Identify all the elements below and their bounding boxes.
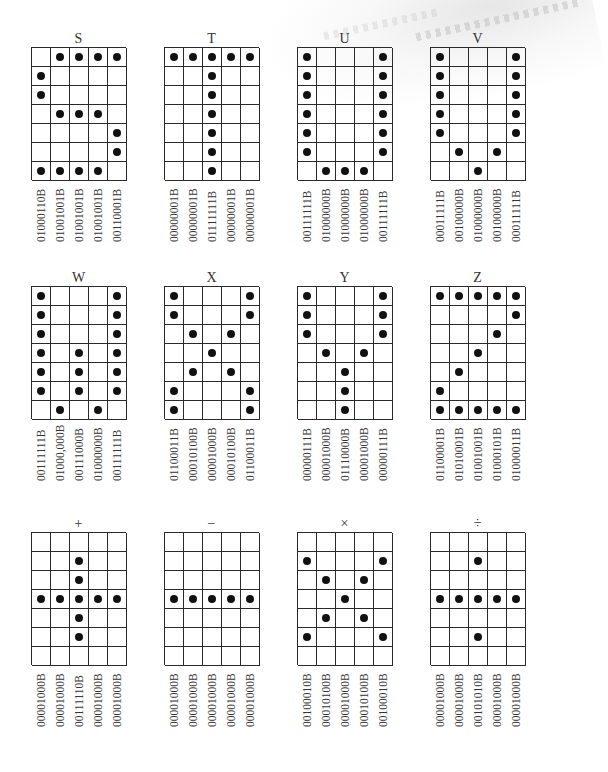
matrix-cell — [431, 105, 450, 124]
matrix-cell — [222, 162, 241, 181]
matrix-cell — [298, 609, 317, 628]
matrix-cell — [89, 533, 108, 552]
matrix-cell — [374, 609, 393, 628]
column-codes: 01000110B01001001B01001001B01001001B0011… — [31, 184, 126, 248]
matrix-cell — [203, 609, 222, 628]
matrix-cell — [507, 287, 526, 306]
matrix-cell — [507, 67, 526, 86]
matrix-cell — [222, 86, 241, 105]
matrix-cell — [374, 533, 393, 552]
matrix-cell — [355, 344, 374, 363]
matrix-cell — [507, 382, 526, 401]
column-codes: 00111111B01000,000B00111000B01000000B001… — [31, 423, 126, 487]
column-code-label: 00000001B — [244, 184, 257, 242]
matrix-cell — [355, 325, 374, 344]
matrix-cell — [32, 86, 51, 105]
matrix-cell — [32, 287, 51, 306]
matrix-cell — [32, 344, 51, 363]
matrix-cell — [203, 344, 222, 363]
matrix-cell — [32, 647, 51, 666]
lit-dot-icon — [37, 311, 45, 319]
column-code-label: 00111111B — [377, 184, 390, 242]
matrix-cell — [89, 287, 108, 306]
matrix-cell — [222, 382, 241, 401]
matrix-cell — [431, 552, 450, 571]
matrix-cell — [70, 67, 89, 86]
lit-dot-icon — [341, 368, 349, 376]
matrix-cell — [317, 325, 336, 344]
matrix-cell — [184, 401, 203, 420]
column-code-label: 01000,000B — [54, 423, 67, 481]
matrix-cell — [165, 287, 184, 306]
matrix-cell — [70, 344, 89, 363]
lit-dot-icon — [379, 557, 387, 565]
matrix-cell — [184, 363, 203, 382]
lit-dot-icon — [75, 110, 83, 118]
lit-dot-icon — [37, 330, 45, 338]
matrix-cell — [488, 628, 507, 647]
lit-dot-icon — [37, 387, 45, 395]
matrix-cell — [469, 287, 488, 306]
matrix-cell — [355, 67, 374, 86]
lit-dot-icon — [303, 53, 311, 61]
matrix-cell — [374, 67, 393, 86]
column-code-label: 00000001B — [225, 184, 238, 242]
matrix-cell — [108, 363, 127, 382]
matrix-cell — [450, 647, 469, 666]
matrix-cell — [450, 325, 469, 344]
matrix-cell — [51, 105, 70, 124]
matrix-cell — [488, 86, 507, 105]
matrix-cell — [241, 105, 260, 124]
matrix-cell — [70, 287, 89, 306]
lit-dot-icon — [379, 72, 387, 80]
matrix-cell — [203, 647, 222, 666]
matrix-cell — [507, 628, 526, 647]
matrix-cell — [450, 344, 469, 363]
matrix-cell — [488, 571, 507, 590]
matrix-cell — [355, 647, 374, 666]
matrix-cell — [431, 86, 450, 105]
column-codes: 00001000B00001000B00111110B00001000B0000… — [31, 669, 126, 733]
matrix-cell — [203, 306, 222, 325]
lit-dot-icon — [379, 148, 387, 156]
matrix-cell — [184, 571, 203, 590]
matrix-cell — [241, 325, 260, 344]
matrix-cell — [70, 325, 89, 344]
matrix-cell — [108, 552, 127, 571]
matrix-cell — [203, 552, 222, 571]
matrix-cell — [108, 401, 127, 420]
lit-dot-icon — [37, 349, 45, 357]
lit-dot-icon — [341, 167, 349, 175]
lit-dot-icon — [208, 167, 216, 175]
matrix-cell — [336, 590, 355, 609]
matrix-cell — [374, 571, 393, 590]
column-codes: 00011111B00100000B01000000B00100000B0001… — [430, 184, 525, 248]
lit-dot-icon — [246, 311, 254, 319]
matrix-cell — [431, 628, 450, 647]
matrix-cell — [222, 363, 241, 382]
char-title: T — [164, 31, 259, 47]
matrix-cell — [317, 48, 336, 67]
matrix-cell — [450, 143, 469, 162]
column-codes: 00000001B00000001B01111111B00000001B0000… — [164, 184, 259, 248]
matrix-cell — [165, 48, 184, 67]
matrix-cell — [70, 48, 89, 67]
matrix-cell — [298, 590, 317, 609]
matrix-cell — [298, 287, 317, 306]
lit-dot-icon — [322, 614, 330, 622]
matrix-cell — [32, 571, 51, 590]
matrix-cell — [488, 162, 507, 181]
matrix-cell — [507, 571, 526, 590]
matrix-cell — [507, 162, 526, 181]
matrix-cell — [70, 590, 89, 609]
matrix-cell — [298, 382, 317, 401]
matrix-cell — [184, 325, 203, 344]
matrix-cell — [317, 363, 336, 382]
lit-dot-icon — [360, 576, 368, 584]
lit-dot-icon — [113, 330, 121, 338]
matrix-cell — [507, 590, 526, 609]
matrix-cell — [507, 325, 526, 344]
matrix-cell — [488, 105, 507, 124]
matrix-cell — [241, 571, 260, 590]
matrix-cell — [184, 306, 203, 325]
